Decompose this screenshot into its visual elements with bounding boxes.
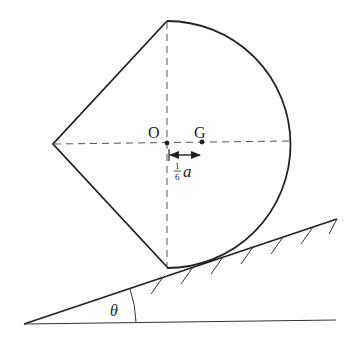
angle-arc — [130, 289, 136, 322]
label-offset-numerator: 1 — [175, 161, 180, 171]
incline-hatching — [151, 219, 337, 294]
cone-outline — [53, 21, 168, 268]
diagram-canvas: O G 1 6 a θ — [0, 0, 353, 338]
label-O: O — [148, 124, 160, 141]
offset-arrowhead-left — [169, 151, 179, 159]
offset-arrowhead-right — [191, 151, 201, 159]
horizontal-axis-dashed — [54, 141, 289, 144]
label-offset-denominator: 6 — [175, 172, 180, 182]
label-theta: θ — [110, 302, 118, 319]
semicircle-arc — [167, 21, 291, 268]
horizontal-ground — [24, 320, 336, 324]
incline-surface — [24, 219, 337, 324]
label-offset-var: a — [183, 162, 192, 181]
label-G: G — [194, 124, 206, 141]
point-O — [165, 141, 170, 146]
